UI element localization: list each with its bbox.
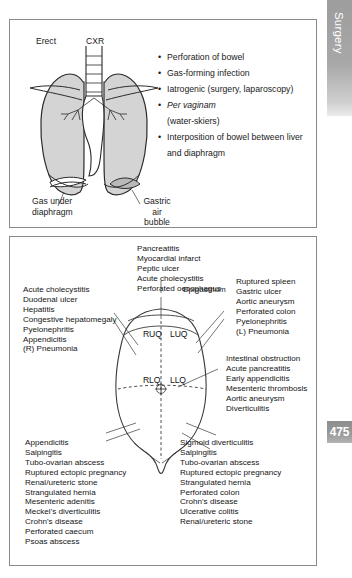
quadrant-label-rlq: RLQ <box>143 375 160 385</box>
page-number-tab: 475 <box>327 421 352 443</box>
chest-xray-svg <box>14 24 174 224</box>
list-item: Gas-forming infection <box>158 66 323 81</box>
quadrant-label-ruq: RUQ <box>143 329 162 339</box>
label-cxr: CXR <box>86 36 104 47</box>
list-item: Interposition of bowel between liver <box>158 130 323 145</box>
text-block-bottom-left: Appendicitis Salpingitis Tubo-ovarian ab… <box>25 438 126 547</box>
list-item: Per vaginam <box>158 98 323 113</box>
bullet-list: Perforation of bowel Gas-forming infecti… <box>158 50 323 161</box>
section-tab-label: Surgery <box>333 12 345 54</box>
textbook-page: Surgery 475 <box>0 0 352 578</box>
list-item: Iatrogenic (surgery, laparoscopy) <box>158 82 323 97</box>
label-gastric-air-bubble: Gastric air bubble <box>135 196 179 228</box>
label-gas-under-diaphragm: Gas under diaphragm <box>32 196 73 217</box>
list-item: Perforation of bowel <box>158 50 323 65</box>
text-block-bottom-right: Sigmoid diverticulitis Salpingitis Tubo-… <box>180 438 281 527</box>
panel-pneumoperitoneum-causes: Erect CXR Gas under diaphragm Gastric ai… <box>9 19 317 228</box>
quadrant-label-llq: LLQ <box>170 375 186 385</box>
label-erect: Erect <box>36 36 56 47</box>
text-block-left-upper: Acute cholecystitis Duodenal ulcer Hepat… <box>23 285 117 354</box>
list-item-continuation: and diaphragm <box>158 146 323 161</box>
quadrant-label-luq: LUQ <box>170 329 187 339</box>
text-block-right-upper: Ruptured spleen Gastric ulcer Aortic ane… <box>236 277 295 336</box>
label-epigastrium: Epigastrium <box>183 285 226 294</box>
causes-bullet-list: Perforation of bowel Gas-forming infecti… <box>158 50 323 162</box>
chest-xray-illustration <box>14 24 174 224</box>
section-tab-surgery: Surgery <box>327 0 352 116</box>
text-block-right-middle: Intestinal obstruction Acute pancreatiti… <box>226 354 307 413</box>
list-item-continuation: (water-skiers) <box>158 114 323 129</box>
